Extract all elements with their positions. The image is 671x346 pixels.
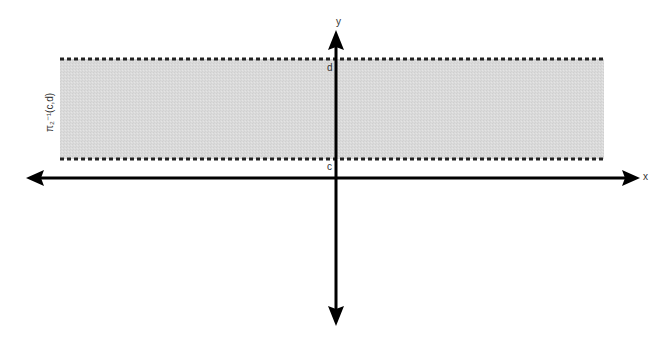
x-axis-label: x bbox=[643, 171, 648, 182]
y-axis-up-arrow-icon bbox=[328, 30, 344, 50]
strip-label: π₂⁻¹(c,d) bbox=[44, 93, 55, 132]
strip-region bbox=[60, 59, 604, 159]
upper-bound-label: d bbox=[327, 62, 333, 73]
y-axis-label: y bbox=[336, 16, 341, 27]
y-axis-down-arrow-icon bbox=[328, 306, 344, 326]
lower-bound-label: c bbox=[327, 161, 332, 172]
diagram-canvas bbox=[0, 0, 671, 346]
